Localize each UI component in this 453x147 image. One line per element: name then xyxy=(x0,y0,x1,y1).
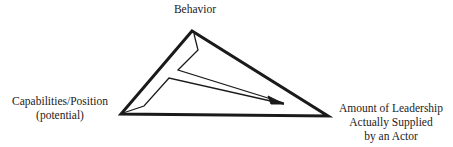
vertex-label-leadership: Amount of Leadership Actually Supplied b… xyxy=(326,101,453,143)
capabilities-label-line-2: (potential) xyxy=(0,108,120,122)
outer-triangle xyxy=(121,31,328,116)
vertex-label-capabilities: Capabilities/Position (potential) xyxy=(0,94,120,122)
leadership-label-line-3: by an Actor xyxy=(326,129,453,143)
leadership-label-line-2: Actually Supplied xyxy=(326,115,453,129)
vertex-label-behavior: Behavior xyxy=(160,2,230,16)
capabilities-label-line-1: Capabilities/Position xyxy=(0,94,120,108)
arrowhead-icon xyxy=(268,96,284,104)
behavior-label: Behavior xyxy=(160,2,230,16)
leadership-label-line-1: Amount of Leadership xyxy=(326,101,453,115)
